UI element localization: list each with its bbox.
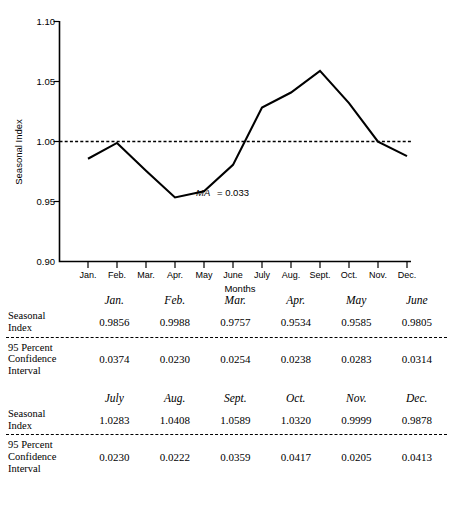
seasonal-index-chart: Seasonal Index 1.10 1.05 1.00 0.95 0.90 — [0, 0, 453, 300]
row-label: 95 Percent Confidence Interval — [6, 338, 84, 379]
table-cell: 1.0283 — [84, 408, 145, 435]
seasonal-index-tables: Jan. Feb. Mar. Apr. May June Seasonal In… — [0, 292, 453, 477]
table-corner — [6, 390, 84, 408]
y-tick-label: 1.05 — [37, 76, 56, 87]
row-label-line: Seasonal — [8, 408, 45, 419]
x-tick-label: Oct. — [341, 270, 358, 280]
column-header: Aug. — [145, 390, 206, 408]
column-header: June — [387, 292, 448, 310]
row-label-line: Seasonal — [8, 310, 45, 321]
y-tick-label: 1.10 — [37, 16, 56, 27]
column-header: Feb. — [145, 292, 206, 310]
table-header-row: July Aug. Sept. Oct. Nov. Dec. — [6, 390, 447, 408]
table-cell: 0.0413 — [387, 435, 448, 476]
column-header: July — [84, 390, 145, 408]
ma-annotation: MA = 0.033 — [196, 187, 249, 198]
y-tick-label: 1.00 — [37, 136, 56, 147]
x-tick-label: June — [223, 270, 243, 280]
y-tick-label: 0.95 — [37, 196, 56, 207]
column-header: Jan. — [84, 292, 145, 310]
chart-canvas: Seasonal Index 1.10 1.05 1.00 0.95 0.90 — [0, 0, 453, 300]
table-cell: 0.0283 — [326, 338, 387, 379]
table-cell: 0.0222 — [145, 435, 206, 476]
x-tick-label: Mar. — [137, 270, 155, 280]
table-row: Seasonal Index 0.9856 0.9988 0.9757 0.95… — [6, 310, 447, 337]
table-cell: 0.0230 — [84, 435, 145, 476]
y-axis-title: Seasonal Index — [13, 119, 24, 185]
row-label-line: Interval — [8, 365, 41, 376]
table-cell: 0.9534 — [266, 310, 327, 337]
x-axis-labels: Jan. Feb. Mar. Apr. May June July Aug. S… — [79, 270, 416, 280]
ma-annotation-variable: MA — [196, 187, 210, 198]
table-cell: 0.0238 — [266, 338, 327, 379]
x-tick-label: Nov. — [369, 270, 387, 280]
table-cell: 0.0417 — [266, 435, 327, 476]
table-corner — [6, 292, 84, 310]
table-cell: 0.0359 — [205, 435, 266, 476]
table-cell: 0.0205 — [326, 435, 387, 476]
column-header: May — [326, 292, 387, 310]
row-label-line: Interval — [8, 463, 41, 474]
table-cell: 0.0230 — [145, 338, 206, 379]
x-tick-label: July — [254, 270, 271, 280]
table-cell: 0.9878 — [387, 408, 448, 435]
x-axis-ticks — [88, 262, 407, 269]
table-cell: 0.9585 — [326, 310, 387, 337]
table-cell: 0.9757 — [205, 310, 266, 337]
column-header: Apr. — [266, 292, 327, 310]
row-label-line: Confidence — [8, 451, 56, 462]
seasonal-index-line — [88, 71, 407, 198]
table-cell: 0.9988 — [145, 310, 206, 337]
table-cell: 1.0589 — [205, 408, 266, 435]
table-cell: 0.0254 — [205, 338, 266, 379]
row-label-line: 95 Percent — [8, 342, 53, 353]
column-header: Sept. — [205, 390, 266, 408]
row-label-line: 95 Percent — [8, 439, 53, 450]
table-row: 95 Percent Confidence Interval 0.0374 0.… — [6, 338, 447, 379]
row-label: Seasonal Index — [6, 408, 84, 435]
x-tick-label: Aug. — [282, 270, 301, 280]
x-tick-label: Jan. — [79, 270, 96, 280]
y-tick-label: 0.90 — [37, 256, 56, 267]
column-header: Mar. — [205, 292, 266, 310]
table-first-half-ci: 95 Percent Confidence Interval 0.0374 0.… — [6, 338, 447, 379]
x-tick-label: Apr. — [167, 270, 183, 280]
table-cell: 0.9856 — [84, 310, 145, 337]
x-tick-label: Feb. — [108, 270, 126, 280]
row-label: 95 Percent Confidence Interval — [6, 435, 84, 476]
row-label-line: Confidence — [8, 353, 56, 364]
table-cell: 0.0314 — [387, 338, 448, 379]
table-row: Seasonal Index 1.0283 1.0408 1.0589 1.03… — [6, 408, 447, 435]
x-tick-label: Dec. — [398, 270, 417, 280]
table-cell: 0.0374 — [84, 338, 145, 379]
table-second-half-ci: 95 Percent Confidence Interval 0.0230 0.… — [6, 435, 447, 476]
table-cell: 1.0408 — [145, 408, 206, 435]
y-axis-ticks: 1.10 1.05 1.00 0.95 0.90 — [37, 16, 60, 267]
ma-annotation-value: = 0.033 — [217, 187, 249, 198]
column-header: Dec. — [387, 390, 448, 408]
row-label: Seasonal Index — [6, 310, 84, 337]
table-first-half: Jan. Feb. Mar. Apr. May June Seasonal In… — [6, 292, 447, 337]
row-label-line: Index — [8, 322, 32, 333]
table-cell: 1.0320 — [266, 408, 327, 435]
row-label-line: Index — [8, 420, 32, 431]
table-cell: 0.9805 — [387, 310, 448, 337]
table-block-gap — [0, 379, 453, 390]
x-tick-label: May — [195, 270, 213, 280]
x-tick-label: Sept. — [309, 270, 330, 280]
table-second-half: July Aug. Sept. Oct. Nov. Dec. Seasonal … — [6, 390, 447, 435]
table-header-row: Jan. Feb. Mar. Apr. May June — [6, 292, 447, 310]
column-header: Nov. — [326, 390, 387, 408]
table-cell: 0.9999 — [326, 408, 387, 435]
table-row: 95 Percent Confidence Interval 0.0230 0.… — [6, 435, 447, 476]
column-header: Oct. — [266, 390, 327, 408]
